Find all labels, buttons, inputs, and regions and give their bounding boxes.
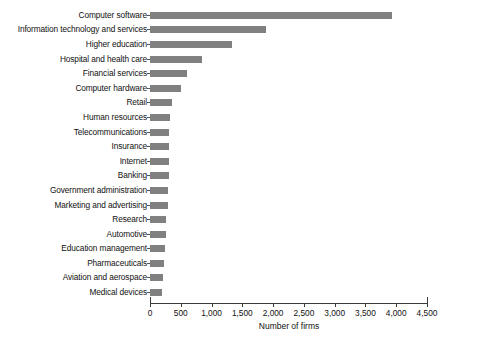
x-axis-line — [150, 303, 428, 304]
bar-track — [150, 26, 490, 33]
bar — [150, 260, 164, 267]
category-label: Research — [0, 215, 147, 224]
x-axis-tick — [212, 303, 213, 307]
plot-area: Computer softwareInformation technology … — [0, 0, 490, 310]
bar-row: Banking — [0, 169, 490, 184]
x-axis-tick — [304, 303, 305, 307]
bar-track — [150, 260, 490, 267]
x-axis-tick — [365, 303, 366, 307]
bar-row: Automotive — [0, 227, 490, 242]
category-label: Information technology and services — [0, 25, 147, 34]
bar-track — [150, 12, 490, 19]
bar-track — [150, 41, 490, 48]
category-label: Marketing and advertising — [0, 201, 147, 210]
category-label: Retail — [0, 98, 147, 107]
x-axis-tick — [335, 303, 336, 307]
bar-row: Information technology and services — [0, 23, 490, 38]
bar-row: Marketing and advertising — [0, 198, 490, 213]
bar-track — [150, 289, 490, 296]
bar-track — [150, 245, 490, 252]
bar — [150, 202, 168, 209]
x-axis-tick — [181, 303, 182, 307]
bar — [150, 158, 169, 165]
x-axis-tick — [150, 303, 151, 307]
category-label: Hospital and health care — [0, 55, 147, 64]
category-label: Human resources — [0, 113, 147, 122]
x-axis-tick — [242, 303, 243, 307]
bar — [150, 187, 168, 194]
category-label: Automotive — [0, 230, 147, 239]
bar — [150, 114, 170, 121]
bar-row: Research — [0, 212, 490, 227]
bar-rows-container: Computer softwareInformation technology … — [0, 8, 490, 300]
category-label: Government administration — [0, 186, 147, 195]
bar — [150, 245, 165, 252]
bar-track — [150, 231, 490, 238]
category-label: Higher education — [0, 40, 147, 49]
bar-track — [150, 114, 490, 121]
bar — [150, 172, 169, 179]
bar-row: Higher education — [0, 37, 490, 52]
bar — [150, 56, 202, 63]
bar-row: Internet — [0, 154, 490, 169]
bar — [150, 70, 187, 77]
bar-row: Human resources — [0, 110, 490, 125]
x-axis-tick — [273, 303, 274, 307]
category-label: Insurance — [0, 142, 147, 151]
bar — [150, 289, 162, 296]
bar-row: Pharmaceuticals — [0, 256, 490, 271]
bar — [150, 274, 163, 281]
bar — [150, 26, 266, 33]
bar-row: Education management — [0, 242, 490, 257]
x-axis-tick — [427, 303, 428, 307]
bar — [150, 41, 232, 48]
bar-row: Financial services — [0, 66, 490, 81]
bar — [150, 99, 172, 106]
bar-chart-figure: Computer softwareInformation technology … — [0, 0, 490, 353]
category-label: Pharmaceuticals — [0, 259, 147, 268]
bar-track — [150, 216, 490, 223]
category-label: Banking — [0, 171, 147, 180]
bar-row: Computer hardware — [0, 81, 490, 96]
bar-track — [150, 56, 490, 63]
x-axis-tick-label: 4,500 — [397, 308, 457, 318]
bar-track — [150, 202, 490, 209]
category-label: Telecommunications — [0, 128, 147, 137]
bar-row: Insurance — [0, 139, 490, 154]
bar — [150, 143, 169, 150]
bar-track — [150, 99, 490, 106]
bar-row: Telecommunications — [0, 125, 490, 140]
bar — [150, 216, 166, 223]
bar-track — [150, 158, 490, 165]
category-label: Computer hardware — [0, 84, 147, 93]
x-axis-tick — [396, 303, 397, 307]
x-axis-title: Number of firms — [150, 321, 428, 331]
bar — [150, 129, 169, 136]
category-label: Aviation and aerospace — [0, 273, 147, 282]
bar — [150, 12, 392, 19]
bar-row: Hospital and health care — [0, 52, 490, 67]
category-label: Financial services — [0, 69, 147, 78]
bar-row: Computer software — [0, 8, 490, 23]
category-label: Computer software — [0, 11, 147, 20]
bar-row: Government administration — [0, 183, 490, 198]
bar-track — [150, 129, 490, 136]
bar-row: Medical devices — [0, 285, 490, 300]
bar-track — [150, 187, 490, 194]
bar — [150, 85, 181, 92]
category-label: Medical devices — [0, 288, 147, 297]
bar-track — [150, 274, 490, 281]
bar-track — [150, 172, 490, 179]
bar-row: Retail — [0, 96, 490, 111]
bar-track — [150, 143, 490, 150]
category-label: Internet — [0, 157, 147, 166]
bar-track — [150, 70, 490, 77]
bar-track — [150, 85, 490, 92]
bar-row: Aviation and aerospace — [0, 271, 490, 286]
category-label: Education management — [0, 244, 147, 253]
bar — [150, 231, 166, 238]
